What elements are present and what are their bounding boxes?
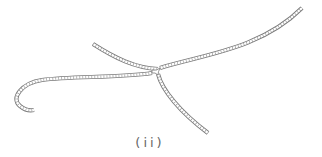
filament-left-hooked xyxy=(16,73,152,110)
filament-right-branch xyxy=(160,8,302,68)
filament-lower-branch xyxy=(158,74,208,133)
filament-diagram xyxy=(0,0,322,157)
filament-upper-left-branch xyxy=(93,44,158,69)
figure-label: (ii) xyxy=(0,135,300,150)
